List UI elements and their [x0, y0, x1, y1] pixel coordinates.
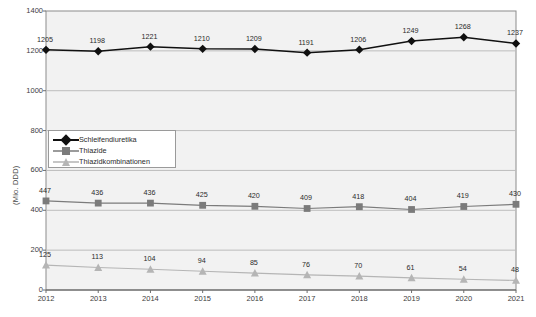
data-value-label: 1205: [27, 36, 63, 43]
data-value-label: 61: [393, 264, 429, 271]
data-value-label: 70: [340, 262, 376, 269]
data-value-label: 430: [497, 190, 533, 197]
line-chart: (Mio. DDD) 0200400600800100012001400 201…: [0, 0, 536, 317]
data-value-label: 1209: [236, 35, 272, 42]
legend-item-thiazidkombinationen[interactable]: Thiazidkombinationen: [53, 156, 171, 167]
data-value-label: 1191: [288, 39, 324, 46]
data-value-label: 436: [131, 189, 167, 196]
data-value-label: 447: [27, 187, 63, 194]
data-value-label: 419: [445, 192, 481, 199]
legend-label-0: Schleifendiuretika: [79, 136, 137, 143]
data-value-label: 104: [131, 255, 167, 262]
data-value-label: 54: [445, 265, 481, 272]
data-value-label: 436: [79, 189, 115, 196]
data-value-label: 418: [340, 193, 376, 200]
data-value-label: 425: [184, 191, 220, 198]
legend-item-thiazide[interactable]: Thiazide: [53, 145, 171, 156]
data-value-label: 1198: [79, 37, 115, 44]
data-value-label: 125: [27, 251, 63, 258]
data-value-label: 1221: [131, 33, 167, 40]
data-value-label: 94: [184, 257, 220, 264]
data-value-label: 113: [79, 253, 115, 260]
data-value-label: 1237: [497, 29, 533, 36]
data-value-label: 409: [288, 194, 324, 201]
square-marker-icon: [53, 145, 79, 156]
chart-legend: Schleifendiuretika Thiazide Thiazidkombi…: [48, 130, 176, 168]
data-value-label: 420: [236, 192, 272, 199]
data-value-label: 85: [236, 259, 272, 266]
data-value-label: 48: [497, 266, 533, 273]
data-value-label: 404: [393, 195, 429, 202]
legend-item-schleifendiuretika[interactable]: Schleifendiuretika: [53, 134, 171, 145]
triangle-marker-icon: [53, 156, 79, 167]
data-value-label: 1206: [340, 36, 376, 43]
data-value-label: 1268: [445, 23, 481, 30]
legend-label-1: Thiazide: [79, 147, 107, 154]
legend-label-2: Thiazidkombinationen: [79, 158, 150, 165]
data-value-label: 1249: [393, 27, 429, 34]
diamond-marker-icon: [53, 134, 79, 145]
data-value-label: 76: [288, 261, 324, 268]
data-value-label: 1210: [184, 35, 220, 42]
